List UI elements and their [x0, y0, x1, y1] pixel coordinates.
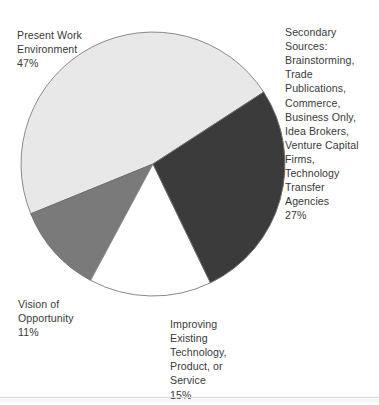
pie-label-improving-existing-text: Improving Existing Technology, Product, … [170, 318, 227, 386]
pie-label-vision-opportunity-percent: 11% [18, 325, 128, 339]
bottom-divider [0, 397, 379, 398]
pie-label-present-work-percent: 47% [17, 56, 137, 70]
pie-label-present-work-environment: Present Work Environment 47% [17, 14, 137, 84]
pie-label-vision-of-opportunity: Vision of Opportunity 11% [18, 283, 128, 353]
pie-label-secondary-sources-text: Secondary Sources: Brainstorming, Trade … [285, 26, 359, 207]
bottom-divider-shadow [0, 399, 379, 405]
pie-label-secondary-sources-percent: 27% [285, 208, 379, 222]
pie-chart-figure: Present Work Environment 47% Secondary S… [0, 0, 379, 405]
pie-label-present-work-text: Present Work Environment [17, 29, 82, 55]
pie-label-secondary-sources: Secondary Sources: Brainstorming, Trade … [285, 11, 379, 237]
pie-label-improving-existing-technology: Improving Existing Technology, Product, … [170, 303, 290, 405]
pie-label-vision-opportunity-text: Vision of Opportunity [18, 298, 74, 324]
